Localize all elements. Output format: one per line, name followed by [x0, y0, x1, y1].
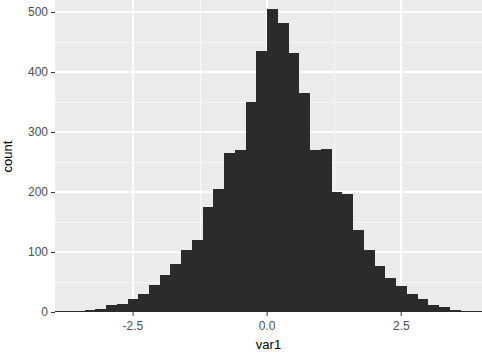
histogram-bar	[267, 9, 278, 312]
histogram-bar	[170, 264, 181, 312]
histogram-bar	[310, 150, 321, 312]
x-axis-title-text: var1	[256, 338, 281, 351]
y-axis-tick-label: 400	[28, 66, 48, 78]
histogram-bar	[235, 150, 246, 312]
x-axis-tick-label: 0.0	[259, 320, 276, 332]
histogram-bar	[181, 250, 192, 312]
y-axis-tick-label: 200	[28, 186, 48, 198]
x-axis-ticks: -2.50.02.5	[0, 312, 482, 338]
histogram-chart: count 0100200300400500 -2.50.02.5 var1	[0, 0, 482, 361]
histogram-bar	[353, 230, 364, 312]
histogram-bar	[128, 299, 139, 312]
plot-panel	[55, 0, 482, 312]
histogram-bar	[160, 275, 171, 312]
y-axis-tick-label: 300	[28, 126, 48, 138]
gridline-major-vertical	[132, 0, 134, 312]
histogram-bar	[289, 53, 300, 312]
histogram-bar	[213, 189, 224, 312]
histogram-bar	[321, 149, 332, 312]
gridline-major-vertical	[400, 0, 402, 312]
histogram-bar	[332, 192, 343, 312]
y-axis-tick: 400	[28, 65, 55, 79]
x-axis-tick: 0.0	[259, 312, 276, 332]
histogram-bar	[418, 299, 429, 312]
histogram-bar	[385, 278, 396, 312]
x-axis-tick-mark	[401, 312, 402, 316]
histogram-bar	[203, 207, 214, 312]
histogram-bar	[407, 294, 418, 312]
y-axis-tick: 100	[28, 245, 55, 259]
y-axis-tick: 300	[28, 125, 55, 139]
histogram-bar	[192, 240, 203, 312]
y-axis-tick-label: 500	[28, 6, 48, 18]
histogram-bar	[342, 194, 353, 312]
histogram-bar	[278, 23, 289, 312]
y-axis-title: count	[0, 0, 16, 312]
y-axis-title-text: count	[2, 140, 15, 172]
histogram-bar	[224, 153, 235, 312]
histogram-bar	[246, 102, 257, 312]
histogram-bar	[299, 93, 310, 312]
histogram-bar	[138, 294, 149, 312]
histogram-bar	[364, 250, 375, 312]
histogram-bar	[106, 305, 117, 312]
x-axis-tick-label: 2.5	[393, 320, 410, 332]
histogram-bar	[396, 286, 407, 312]
x-axis-tick-mark	[267, 312, 268, 316]
y-axis-tick: 200	[28, 185, 55, 199]
x-axis-tick: -2.5	[123, 312, 144, 332]
histogram-bar	[428, 305, 439, 312]
x-axis-tick-label: -2.5	[123, 320, 144, 332]
y-axis-tick-label: 100	[28, 246, 48, 258]
x-axis-tick: 2.5	[393, 312, 410, 332]
y-axis-ticks: 0100200300400500	[16, 0, 55, 312]
x-axis-tick-mark	[132, 312, 133, 316]
histogram-bar	[149, 285, 160, 312]
histogram-bar	[375, 266, 386, 312]
x-axis-title: var1	[55, 338, 482, 358]
histogram-bar	[256, 51, 267, 312]
histogram-bar	[117, 304, 128, 312]
y-axis-tick: 500	[28, 5, 55, 19]
